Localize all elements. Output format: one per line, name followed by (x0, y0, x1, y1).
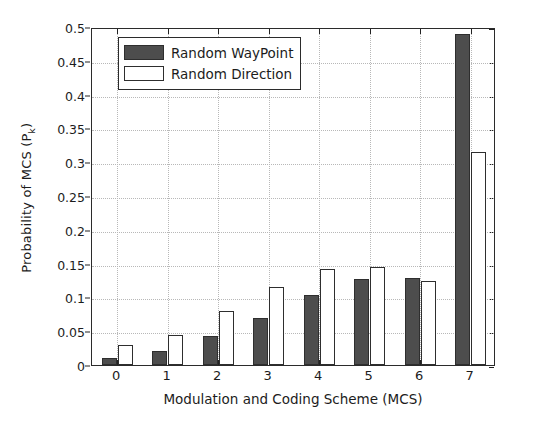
y-tick-mark (85, 129, 90, 130)
y-tick-label: 0.3 (65, 156, 85, 171)
bar-group (455, 29, 486, 365)
y-tick-label: 0.2 (65, 223, 85, 238)
chart-figure: Probability of MCS (Pk) 00.050.10.150.20… (0, 0, 553, 432)
y-tick-label: 0.1 (65, 291, 85, 306)
bar (320, 269, 335, 365)
bar-group (304, 29, 335, 365)
legend-swatch-random-waypoint (124, 45, 164, 60)
y-axis-label: Probability of MCS (Pk) (19, 122, 37, 272)
legend-item-1: Random Direction (124, 63, 293, 84)
chart-legend: Random WayPoint Random Direction (118, 37, 301, 90)
y-tick-mark-right (489, 29, 494, 30)
legend-item-0: Random WayPoint (124, 42, 293, 63)
bar (118, 345, 133, 365)
legend-label-random-direction: Random Direction (171, 66, 292, 82)
y-axis-label-suffix: ) (19, 122, 34, 127)
x-axis-label: Modulation and Coding Scheme (MCS) (91, 391, 495, 407)
y-tick-label: 0.05 (57, 325, 85, 340)
x-tick-label: 1 (163, 368, 171, 383)
y-tick-label: 0.4 (65, 88, 85, 103)
x-tick-label: 2 (213, 368, 221, 383)
bar (370, 267, 385, 365)
bar (152, 351, 167, 365)
y-tick-label: 0.45 (57, 54, 85, 69)
y-tick-mark (85, 28, 90, 29)
bar (168, 335, 183, 365)
y-axis-label-text: Probability of MCS (P (19, 133, 34, 272)
y-axis-label-container: Probability of MCS (Pk) (6, 0, 50, 395)
bar-group (354, 29, 385, 365)
bar (405, 278, 420, 365)
y-tick-mark (85, 61, 90, 62)
y-tick-label: 0.25 (57, 190, 85, 205)
x-tick-label: 3 (264, 368, 272, 383)
y-tick-label: 0 (77, 359, 85, 374)
bar-group (405, 29, 436, 365)
y-tick-label: 0.35 (57, 122, 85, 137)
x-tick-label: 6 (415, 368, 423, 383)
bar (304, 295, 319, 365)
bar (421, 281, 436, 365)
y-axis-ticks: 00.050.10.150.20.250.30.350.40.450.5 (46, 28, 90, 366)
bar (354, 279, 369, 365)
x-axis-ticks: 01234567 (91, 368, 495, 390)
bar (455, 34, 470, 365)
bar (471, 152, 486, 365)
plot-area: Random WayPoint Random Direction (91, 28, 495, 366)
bar (203, 336, 218, 365)
legend-label-random-waypoint: Random WayPoint (171, 45, 293, 61)
x-tick-label: 7 (466, 368, 474, 383)
y-tick-mark (85, 298, 90, 299)
y-tick-mark (85, 230, 90, 231)
y-tick-mark (85, 366, 90, 367)
bar (269, 287, 284, 365)
y-tick-mark (85, 95, 90, 96)
y-axis-label-subscript: k (27, 128, 37, 133)
y-tick-mark (85, 332, 90, 333)
y-tick-label: 0.5 (65, 21, 85, 36)
y-tick-mark (85, 264, 90, 265)
bar (219, 311, 234, 365)
x-tick-label: 0 (112, 368, 120, 383)
bar (253, 318, 268, 365)
y-tick-mark (85, 197, 90, 198)
x-tick-label: 4 (314, 368, 322, 383)
y-tick-mark (85, 163, 90, 164)
y-tick-label: 0.15 (57, 257, 85, 272)
legend-swatch-random-direction (124, 66, 164, 81)
x-tick-label: 5 (365, 368, 373, 383)
bar (102, 358, 117, 365)
